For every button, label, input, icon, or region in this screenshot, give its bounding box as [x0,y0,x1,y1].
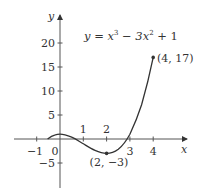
function-graph: −1 0 1 2 3 4 −5 5 10 15 20 y x y = x3 − … [0,0,198,194]
point-min [105,152,109,156]
x-axis-label: x [181,143,188,156]
y-tick-label: 5 [48,109,55,122]
x-tick-label: 4 [150,145,157,158]
y-tick-label: 10 [41,85,55,98]
y-axis-label: y [47,10,55,23]
x-tick-label: 2 [103,123,110,136]
point-endpoint [151,56,155,60]
y-tick-label: 15 [41,61,55,74]
point-min-label: (2, −3) [90,156,129,169]
x-tick-label: 1 [80,123,87,136]
equation-label: y = x3 − 3x2 + 1 [83,29,178,43]
point-endpoint-label: (4, 17) [157,52,194,65]
y-tick-label: −5 [39,157,55,170]
y-tick-label: 20 [41,37,55,50]
